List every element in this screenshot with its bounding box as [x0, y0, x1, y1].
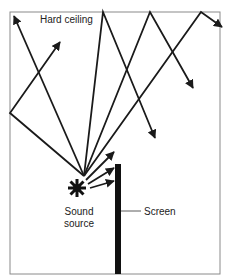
hard-ceiling-label: Hard ceiling [40, 14, 93, 26]
sound-source-label-line2: source [63, 218, 95, 230]
ray-screen-3 [90, 181, 114, 188]
ray-ceiling-3 [84, 12, 222, 176]
screen-label: Screen [144, 206, 176, 218]
sound-source-icon [68, 179, 86, 197]
reflection-diagram [0, 0, 232, 280]
ray-corner [14, 16, 84, 176]
ray-left-wall [10, 42, 84, 176]
screen-bar [115, 164, 121, 274]
sound-source-label: Sound source [63, 206, 95, 230]
sound-source-label-line1: Sound [63, 206, 95, 218]
